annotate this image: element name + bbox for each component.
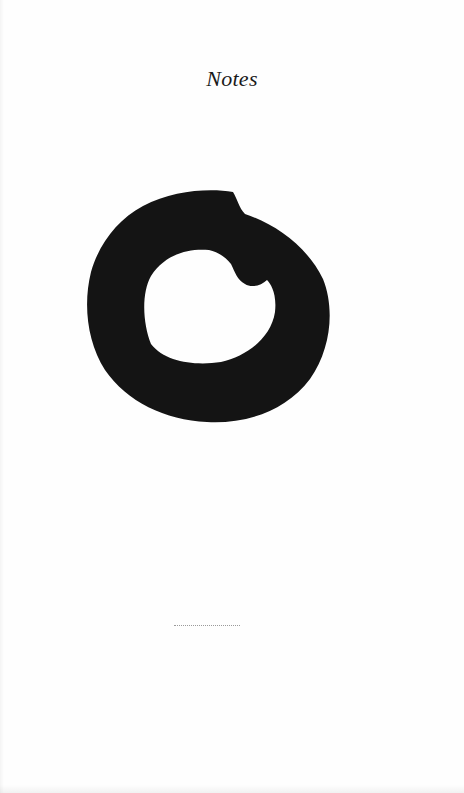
- page-edge-shadow: [0, 0, 4, 793]
- book-page: Notes: [0, 0, 464, 793]
- dotted-separator: [174, 625, 240, 626]
- enso-ring-illustration: [85, 184, 335, 426]
- enso-ring-icon: [85, 184, 335, 426]
- page-edge-shadow-bottom: [0, 785, 464, 793]
- page-title: Notes: [0, 66, 464, 92]
